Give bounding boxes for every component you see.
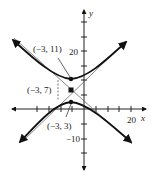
x-axis-label: x xyxy=(140,113,145,123)
vertex-upper-label: (−3, 11) xyxy=(33,44,62,54)
leader-lower xyxy=(66,104,71,117)
y-axis-label: y xyxy=(88,8,93,18)
x-tick-label-20: 20 xyxy=(127,115,137,125)
leader-upper xyxy=(58,58,70,77)
vertex-lower-point xyxy=(69,100,73,104)
center-label: (−3, 7) xyxy=(27,85,52,95)
center-point xyxy=(69,88,74,93)
y-tick-label-neg10: −10 xyxy=(66,134,81,144)
vertex-lower-label: (−3, 3) xyxy=(47,121,72,131)
upper-branch xyxy=(13,40,126,79)
hyperbola-chart: (−3, 11) (−3, 7) (−3, 3) 20 −10 20 y x xyxy=(0,0,154,187)
vertex-upper-point xyxy=(69,77,73,81)
y-tick-label-20: 20 xyxy=(69,47,79,57)
